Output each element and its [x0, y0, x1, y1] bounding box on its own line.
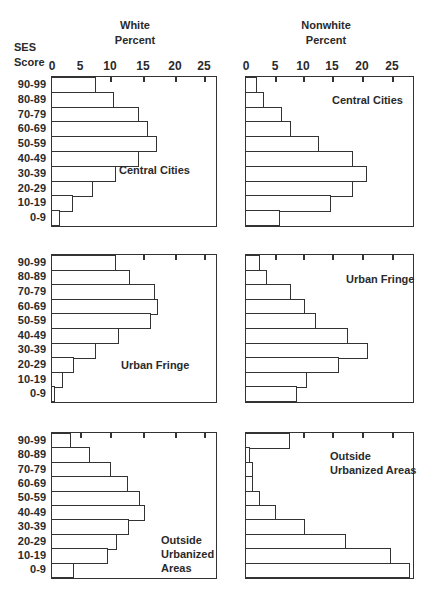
axis-tick: [392, 433, 394, 438]
axis-tick: [332, 255, 334, 260]
panel-label-line: Areas: [161, 561, 214, 575]
ses-category-label: 10-19: [0, 373, 46, 385]
panel-label-line: Urbanized: [161, 547, 214, 561]
white-axis-tick-label: 10: [103, 59, 116, 73]
ses-category-label: 40-49: [0, 152, 46, 164]
ses-category-label: 40-49: [0, 506, 46, 518]
ses-category-label: 10-19: [0, 549, 46, 561]
white-percent-header: White Percent: [100, 18, 170, 48]
panel-label-line: Urban Fringe: [346, 272, 414, 286]
bar-0-9: [52, 210, 60, 226]
axis-tick: [303, 77, 305, 82]
ses-category-label: 70-79: [0, 108, 46, 120]
outside-urbanized-white-label: OutsideUrbanizedAreas: [161, 533, 214, 575]
urban-fringe-nonwhite-label: Urban Fringe: [346, 272, 414, 286]
axis-tick: [175, 433, 177, 438]
ses-category-label: 20-29: [0, 358, 46, 370]
nonwhite-axis-tick-label: 25: [385, 59, 398, 73]
panel-label-line: Outside: [161, 533, 214, 547]
ses-category-label: 30-39: [0, 167, 46, 179]
ses-category-label: 30-39: [0, 343, 46, 355]
ses-label: SES: [14, 40, 45, 55]
ses-category-label: 80-89: [0, 448, 46, 460]
axis-tick: [275, 77, 277, 82]
ses-category-label: 60-69: [0, 122, 46, 134]
axis-tick: [143, 77, 145, 82]
ses-category-label: 20-29: [0, 535, 46, 547]
bar-90-99: [246, 433, 290, 449]
panel-label-line: Urban Fringe: [121, 358, 189, 372]
bar-0-9: [246, 563, 410, 579]
urban-fringe-white-panel: [51, 254, 217, 403]
white-label: White: [100, 18, 170, 33]
axis-tick: [362, 77, 364, 82]
ses-category-label: 70-79: [0, 463, 46, 475]
score-label: Score: [14, 55, 45, 70]
ses-category-label: 10-19: [0, 196, 46, 208]
white-axis-tick-label: 25: [197, 59, 210, 73]
axis-tick: [110, 77, 112, 82]
central-cities-nonwhite-label: Central Cities: [332, 93, 403, 107]
nonwhite-axis-tick-label: 20: [355, 59, 368, 73]
ses-category-label: 60-69: [0, 477, 46, 489]
axis-tick: [275, 255, 277, 260]
ses-category-label: 80-89: [0, 93, 46, 105]
ses-category-label: 50-59: [0, 314, 46, 326]
nonwhite-axis-tick-label: 15: [325, 59, 338, 73]
outside-urbanized-nonwhite-label: OutsideUrbanized Areas: [330, 449, 416, 477]
ses-category-label: 90-99: [0, 434, 46, 446]
ses-category-label: 60-69: [0, 300, 46, 312]
axis-tick: [362, 255, 364, 260]
central-cities-white-label: Central Cities: [119, 163, 190, 177]
bar-0-9: [246, 386, 297, 402]
axis-tick: [362, 433, 364, 438]
axis-tick: [80, 433, 82, 438]
axis-tick: [392, 255, 394, 260]
panel-label-line: Urbanized Areas: [330, 463, 416, 477]
axis-tick: [175, 77, 177, 82]
axis-tick: [143, 255, 145, 260]
ses-category-label: 90-99: [0, 256, 46, 268]
percent-label: Percent: [286, 33, 366, 48]
nonwhite-axis-tick-label: 5: [272, 59, 279, 73]
axis-tick: [392, 77, 394, 82]
white-axis-tick-label: 15: [136, 59, 149, 73]
axis-tick: [143, 433, 145, 438]
panel-label-line: Outside: [330, 449, 416, 463]
nonwhite-percent-header: Nonwhite Percent: [286, 18, 366, 48]
white-axis-tick-label: 5: [77, 59, 84, 73]
ses-category-label: 40-49: [0, 329, 46, 341]
ses-category-label: 50-59: [0, 137, 46, 149]
ses-category-label: 0-9: [0, 563, 46, 575]
bar-0-9: [246, 210, 280, 226]
nonwhite-label: Nonwhite: [286, 18, 366, 33]
central-cities-white-panel: [51, 76, 217, 227]
percent-label: Percent: [100, 33, 170, 48]
ses-category-label: 0-9: [0, 387, 46, 399]
ses-category-label: 50-59: [0, 491, 46, 503]
axis-tick: [204, 255, 206, 260]
bar-0-9: [52, 386, 55, 402]
urban-fringe-white-label: Urban Fringe: [121, 358, 189, 372]
axis-tick: [204, 77, 206, 82]
ses-category-label: 30-39: [0, 520, 46, 532]
bar-0-9: [52, 563, 74, 579]
axis-tick: [332, 77, 334, 82]
axis-tick: [175, 255, 177, 260]
axis-tick: [303, 255, 305, 260]
nonwhite-axis-tick-label: 0: [243, 59, 250, 73]
white-axis-tick-label: 0: [49, 59, 56, 73]
ses-category-label: 80-89: [0, 270, 46, 282]
nonwhite-axis-tick-label: 10: [296, 59, 309, 73]
axis-tick: [204, 433, 206, 438]
ses-category-label: 90-99: [0, 78, 46, 90]
ses-category-label: 0-9: [0, 211, 46, 223]
axis-tick: [332, 433, 334, 438]
white-axis-tick-label: 20: [168, 59, 181, 73]
ses-score-header: SES Score: [14, 40, 45, 70]
ses-category-label: 70-79: [0, 285, 46, 297]
axis-tick: [110, 433, 112, 438]
panel-label-line: Central Cities: [119, 163, 190, 177]
axis-tick: [303, 433, 305, 438]
panel-label-line: Central Cities: [332, 93, 403, 107]
